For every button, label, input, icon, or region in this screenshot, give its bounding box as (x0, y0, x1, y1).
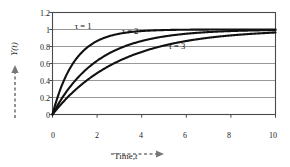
chart-figure: Y(t) 1.2 1 0.8 0.6 0.4 0.2 0 0 2 4 6 8 1… (0, 0, 290, 167)
plot-area (0, 0, 290, 167)
x-axis-label-group: Time,t (110, 148, 230, 164)
series-label-tau-3: τ = 3 (168, 41, 185, 51)
x-axis-arrow-icon (110, 148, 166, 160)
series-label-tau-1: τ = 1 (75, 21, 92, 31)
series-label-tau-2: τ = 2 (122, 26, 139, 36)
